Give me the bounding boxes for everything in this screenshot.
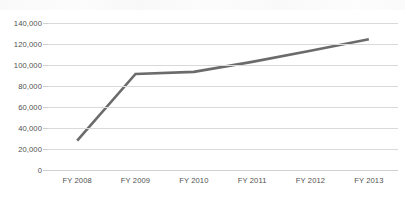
- y-axis-tick-label: 120,000: [0, 40, 42, 49]
- y-axis-tick-mark: [43, 65, 48, 66]
- x-axis-tick-label: FY 2012: [282, 176, 340, 186]
- y-axis-tick-mark: [43, 44, 48, 45]
- gridline: [48, 44, 398, 45]
- y-axis-tick-mark: [43, 86, 48, 87]
- y-axis-tick-label: 40,000: [0, 124, 42, 133]
- y-axis-tick-label: 0: [0, 166, 42, 175]
- y-axis-tick-mark: [43, 149, 48, 150]
- series-polyline: [77, 39, 369, 140]
- x-axis-tick-label: FY 2011: [223, 176, 281, 186]
- y-axis-tick-mark: [43, 107, 48, 108]
- line-chart: 140,000120,000100,00080,00060,00040,0002…: [0, 0, 405, 207]
- y-axis-tick-label: 100,000: [0, 61, 42, 70]
- gridline: [48, 149, 398, 150]
- gridline: [48, 107, 398, 108]
- y-axis-tick-label: 60,000: [0, 103, 42, 112]
- series-line: [48, 23, 398, 170]
- x-axis-tick-label: FY 2008: [48, 176, 106, 186]
- scan-bleed-artifact: [0, 0, 405, 10]
- x-axis-tick-label: FY 2009: [107, 176, 165, 186]
- gridline: [48, 170, 398, 171]
- y-axis: 140,000120,000100,00080,00060,00040,0002…: [0, 23, 42, 170]
- gridline: [48, 65, 398, 66]
- gridline: [48, 23, 398, 24]
- gridline: [48, 128, 398, 129]
- y-axis-tick-mark: [43, 23, 48, 24]
- y-axis-tick-label: 80,000: [0, 82, 42, 91]
- y-axis-tick-label: 20,000: [0, 145, 42, 154]
- x-axis-tick-label: FY 2010: [165, 176, 223, 186]
- x-axis: FY 2008FY 2009FY 2010FY 2011FY 2012FY 20…: [48, 176, 398, 190]
- plot-area: [48, 23, 398, 170]
- gridline: [48, 86, 398, 87]
- y-axis-tick-mark: [43, 170, 48, 171]
- x-axis-tick-label: FY 2013: [340, 176, 398, 186]
- y-axis-tick-label: 140,000: [0, 19, 42, 28]
- y-axis-tick-mark: [43, 128, 48, 129]
